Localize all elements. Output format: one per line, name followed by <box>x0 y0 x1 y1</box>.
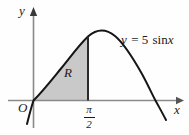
equation-equals-sign: = <box>131 32 138 47</box>
equation-argument: x <box>168 32 174 47</box>
x-axis-label: x <box>174 103 180 116</box>
x-tick-label-pi-over-two: π 2 <box>80 104 98 130</box>
y-axis-label: y <box>19 4 25 17</box>
fraction-denominator-two: 2 <box>80 119 98 131</box>
sine-curve-figure: y x O R y = 5 sinx π 2 <box>0 0 189 135</box>
equation-function-name: sin <box>153 32 168 47</box>
region-label-R: R <box>64 66 72 79</box>
origin-label: O <box>18 101 27 114</box>
fraction-numerator-pi: π <box>80 104 98 116</box>
equation-label: y = 5 sinx <box>121 33 174 46</box>
y-axis-arrowhead <box>30 7 37 16</box>
